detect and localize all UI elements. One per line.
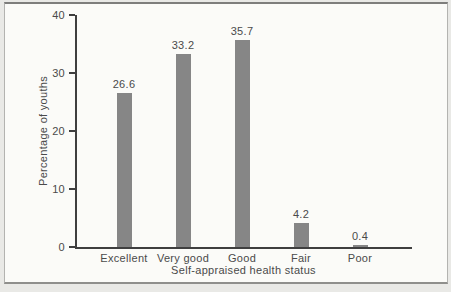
- bar: [117, 93, 132, 247]
- bar: [235, 40, 250, 247]
- x-axis-line: [75, 247, 412, 249]
- y-tick-label: 40: [39, 9, 65, 21]
- scanned-page: Percentage of youths Self-appraised heal…: [0, 0, 451, 292]
- bar: [353, 245, 368, 247]
- y-tick-label: 30: [39, 67, 65, 79]
- bar-value-label: 35.7: [220, 25, 264, 37]
- y-axis-line: [75, 15, 77, 247]
- x-tick-label: Poor: [325, 252, 395, 264]
- y-tick-mark: [69, 246, 75, 248]
- bar-value-label: 0.4: [338, 230, 382, 242]
- y-tick-mark: [69, 188, 75, 190]
- y-tick-label: 10: [39, 183, 65, 195]
- y-tick-mark: [69, 14, 75, 16]
- bar-value-label: 33.2: [161, 39, 205, 51]
- y-tick-label: 20: [39, 125, 65, 137]
- y-tick-label: 0: [39, 241, 65, 253]
- bar-value-label: 4.2: [279, 208, 323, 220]
- y-tick-mark: [69, 72, 75, 74]
- y-tick-mark: [69, 130, 75, 132]
- bar: [294, 223, 309, 247]
- bar-chart: Percentage of youths Self-appraised heal…: [0, 0, 451, 292]
- x-axis-title: Self-appraised health status: [75, 264, 412, 276]
- bar-value-label: 26.6: [102, 78, 146, 90]
- bar: [176, 54, 191, 247]
